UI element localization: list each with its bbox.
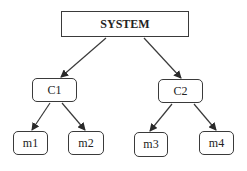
tree-diagram: SYSTEM C1 C2 m1 m2 m3 m4 xyxy=(0,0,247,171)
node-m3: m3 xyxy=(134,132,168,157)
node-m1: m1 xyxy=(13,131,48,155)
node-label: C1 xyxy=(47,83,61,98)
node-m4: m4 xyxy=(199,131,234,155)
edge-arrow-c1-to-m1 xyxy=(32,103,50,130)
node-label: SYSTEM xyxy=(100,17,149,32)
node-c2: C2 xyxy=(158,79,203,103)
edge-arrow-c1-to-m2 xyxy=(62,103,85,130)
node-label: m3 xyxy=(143,137,158,152)
node-c1: C1 xyxy=(32,78,77,102)
node-m2: m2 xyxy=(68,131,104,155)
edge-arrow-system-to-c1 xyxy=(61,38,106,77)
node-label: C2 xyxy=(173,84,187,99)
node-label: m4 xyxy=(209,136,224,151)
node-label: m1 xyxy=(23,136,38,151)
node-label: m2 xyxy=(78,136,93,151)
edge-arrow-system-to-c2 xyxy=(144,38,181,78)
edge-arrow-c2-to-m4 xyxy=(194,104,216,130)
edge-arrow-c2-to-m3 xyxy=(150,104,172,131)
node-system: SYSTEM xyxy=(61,11,189,37)
